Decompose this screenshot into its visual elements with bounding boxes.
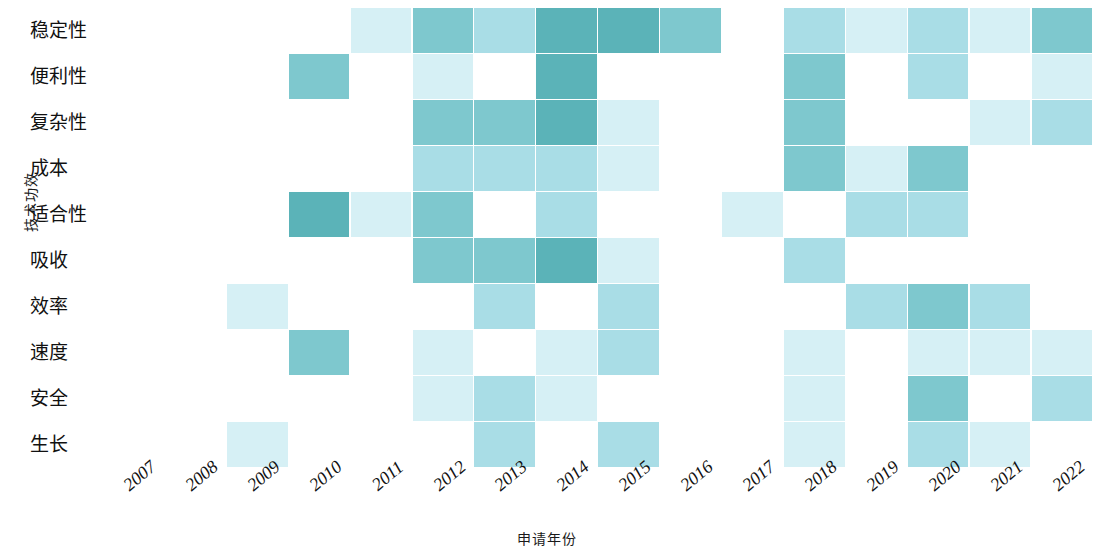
heatmap-cell[interactable]	[598, 330, 659, 375]
heatmap-cell[interactable]	[598, 146, 659, 191]
heatmap-cell[interactable]	[413, 54, 474, 99]
heatmap-row	[103, 8, 1093, 54]
heatmap-plot-area	[103, 8, 1093, 468]
heatmap-cell[interactable]	[784, 146, 845, 191]
y-tick-label: 吸收	[30, 238, 98, 284]
heatmap-cell[interactable]	[908, 284, 969, 329]
y-axis-tick-labels: 稳定性便利性复杂性成本适合性吸收效率速度安全生长	[30, 8, 98, 468]
heatmap-cell[interactable]	[536, 146, 597, 191]
heatmap-figure: 技术功效 稳定性便利性复杂性成本适合性吸收效率速度安全生长 2007200820…	[0, 0, 1093, 556]
heatmap-cell[interactable]	[660, 8, 721, 53]
heatmap-cell[interactable]	[474, 238, 535, 283]
y-tick-label: 便利性	[30, 54, 98, 100]
heatmap-cell[interactable]	[784, 330, 845, 375]
heatmap-cell[interactable]	[970, 330, 1031, 375]
y-tick-label: 效率	[30, 284, 98, 330]
y-tick-label: 速度	[30, 330, 98, 376]
x-axis-tick-labels: 2007200820092010201120122013201420152016…	[103, 468, 1093, 528]
heatmap-cell[interactable]	[536, 330, 597, 375]
heatmap-cell[interactable]	[598, 8, 659, 53]
heatmap-cell[interactable]	[474, 100, 535, 145]
heatmap-cell[interactable]	[908, 8, 969, 53]
heatmap-cell[interactable]	[784, 54, 845, 99]
heatmap-cell[interactable]	[908, 146, 969, 191]
heatmap-row	[103, 146, 1093, 192]
heatmap-cell[interactable]	[474, 376, 535, 421]
heatmap-cell[interactable]	[1032, 8, 1093, 53]
heatmap-cell[interactable]	[289, 54, 350, 99]
heatmap-cell[interactable]	[289, 330, 350, 375]
heatmap-cell[interactable]	[536, 192, 597, 237]
heatmap-cell[interactable]	[908, 376, 969, 421]
y-tick-label: 安全	[30, 376, 98, 422]
heatmap-cell[interactable]	[1032, 100, 1093, 145]
heatmap-cell[interactable]	[289, 192, 350, 237]
heatmap-cell[interactable]	[846, 146, 907, 191]
y-tick-label: 适合性	[30, 192, 98, 238]
heatmap-cell[interactable]	[598, 238, 659, 283]
heatmap-cell[interactable]	[536, 8, 597, 53]
heatmap-cell[interactable]	[598, 284, 659, 329]
y-tick-label: 成本	[30, 146, 98, 192]
heatmap-cell[interactable]	[1032, 330, 1093, 375]
heatmap-row	[103, 330, 1093, 376]
heatmap-cell[interactable]	[536, 54, 597, 99]
heatmap-cell[interactable]	[784, 376, 845, 421]
heatmap-cell[interactable]	[413, 8, 474, 53]
x-axis-title: 申请年份	[0, 528, 1093, 548]
heatmap-cell[interactable]	[784, 8, 845, 53]
heatmap-cell[interactable]	[846, 284, 907, 329]
heatmap-cell[interactable]	[598, 100, 659, 145]
heatmap-cell[interactable]	[227, 284, 288, 329]
heatmap-cell[interactable]	[536, 238, 597, 283]
heatmap-cell[interactable]	[413, 376, 474, 421]
heatmap-cell[interactable]	[908, 54, 969, 99]
heatmap-cell[interactable]	[846, 8, 907, 53]
heatmap-cell[interactable]	[413, 192, 474, 237]
heatmap-cell[interactable]	[722, 192, 783, 237]
heatmap-row	[103, 284, 1093, 330]
heatmap-cell[interactable]	[413, 238, 474, 283]
heatmap-cell[interactable]	[908, 330, 969, 375]
heatmap-cell[interactable]	[351, 192, 412, 237]
heatmap-cell[interactable]	[970, 284, 1031, 329]
heatmap-cell[interactable]	[1032, 54, 1093, 99]
heatmap-cell[interactable]	[970, 100, 1031, 145]
heatmap-cell[interactable]	[1032, 376, 1093, 421]
heatmap-cell[interactable]	[970, 8, 1031, 53]
heatmap-cell[interactable]	[908, 192, 969, 237]
y-tick-label: 稳定性	[30, 8, 98, 54]
heatmap-cell[interactable]	[413, 330, 474, 375]
heatmap-cell[interactable]	[784, 100, 845, 145]
heatmap-cell[interactable]	[536, 376, 597, 421]
heatmap-cell[interactable]	[413, 100, 474, 145]
heatmap-cell[interactable]	[536, 100, 597, 145]
heatmap-cell[interactable]	[474, 284, 535, 329]
heatmap-cell[interactable]	[474, 8, 535, 53]
heatmap-cell[interactable]	[846, 192, 907, 237]
heatmap-cell[interactable]	[474, 146, 535, 191]
heatmap-cell[interactable]	[784, 238, 845, 283]
heatmap-row	[103, 54, 1093, 100]
heatmap-row	[103, 238, 1093, 284]
heatmap-row	[103, 376, 1093, 422]
heatmap-row	[103, 100, 1093, 146]
heatmap-row	[103, 192, 1093, 238]
heatmap-cell[interactable]	[351, 8, 412, 53]
y-tick-label: 生长	[30, 422, 98, 468]
heatmap-cell[interactable]	[413, 146, 474, 191]
y-tick-label: 复杂性	[30, 100, 98, 146]
